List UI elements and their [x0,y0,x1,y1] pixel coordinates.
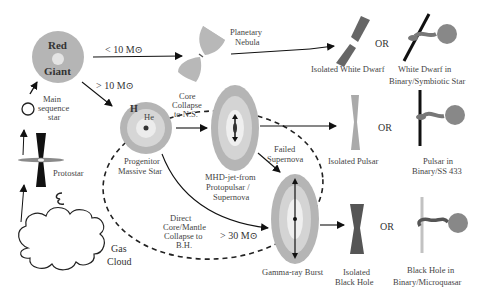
protostar-label: Protostar [53,169,84,178]
arrow-nebula-to-white-dwarf [231,49,310,54]
mhd-label-1: MHD-jet-from [205,173,256,182]
failed-sn-label-1: Failed [274,145,295,154]
red-giant-label-1: Red [48,40,67,51]
gt30-label: > 30 M⊙ [220,230,258,241]
direct-collapse-label-4: B.H. [176,241,192,250]
arrow-red-giant-to-nebula [93,56,182,57]
main-sequence-star-icon [22,103,34,115]
mhd-label-3: Supernova [213,193,249,202]
wd-binary-label-2: Binary/Symbiotic Star [389,77,465,86]
isolated-black-hole-icon [350,204,364,254]
progenitor-he-label: He [144,113,154,122]
gt10-label: > 10 M⊙ [96,80,134,91]
gas-cloud-icon [19,193,105,270]
isolated-pulsar-label: Isolated Pulsar [328,157,378,166]
isolated-wd-label: Isolated White Dwarf [311,65,384,74]
white-dwarf-binary-icon [404,14,457,61]
bh-binary-label-2: Binary/Microquasar [393,278,461,287]
pulsar-binary-label-1: Pulsar in [423,157,453,166]
or-label-bh: OR [380,221,394,232]
main-seq-label-3: star [48,113,60,122]
gas-cloud-label-2: Cloud [107,256,131,267]
isolated-bh-label-1: Isolated [343,268,370,277]
isolated-white-dwarf-icon [336,16,370,67]
pulsar-binary-label-2: Binary/SS 433 [412,167,462,176]
arrow-main-seq-to-red-giant [30,82,37,94]
mhd-label-2: Protopulsar / [206,183,250,192]
protostar-icon [18,133,64,187]
progenitor-massive-star-icon [120,102,172,154]
pulsar-binary-icon [416,90,465,146]
gamma-ray-burst-icon [271,174,319,264]
core-collapse-label-3: to N.S. [174,110,198,119]
wd-binary-label-1: White Dwarf in [398,65,451,74]
isolated-bh-label-2: Black Hole [335,278,373,287]
gas-cloud-label-1: Gas [111,243,127,254]
grb-label: Gamma-ray Burst [262,268,323,277]
planetary-nebula-label-1: Planetary [230,28,262,37]
progenitor-label-2: Massive Star [118,167,162,176]
red-giant-label-2: Giant [44,66,71,77]
black-hole-binary-icon [419,197,468,253]
arrow-nebula-to-wd-tip [310,46,334,49]
lt10-label: < 10 M⊙ [105,44,143,55]
bh-binary-label-1: Black Hole in [407,266,454,275]
planetary-nebula-label-2: Nebula [235,38,260,47]
arrow-protostar-to-main-seq [23,130,24,155]
mhd-jet-protopulsar-icon [211,85,259,171]
progenitor-label-1: Progenitor [124,157,160,166]
planetary-nebula-icon [178,26,225,82]
or-label-pulsar: OR [378,122,392,133]
or-label-wd: OR [375,38,389,49]
arrow-cloud-to-protostar [21,185,24,222]
progenitor-h-label: H [130,103,138,114]
failed-sn-label-2: Supernova [267,155,303,164]
isolated-pulsar-icon [351,95,360,150]
